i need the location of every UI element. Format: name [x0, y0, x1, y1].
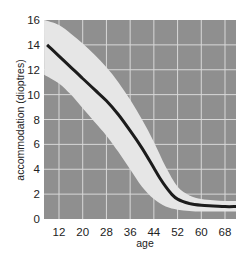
x-tick-label: 12 [53, 226, 66, 238]
x-tick-label: 36 [124, 226, 137, 238]
y-axis-label: accommodation (dioptres) [14, 59, 26, 180]
y-axis-ticks: 0246810121416 [27, 14, 40, 225]
y-tick-label: 6 [34, 138, 40, 150]
x-tick-label: 60 [195, 226, 208, 238]
accommodation-vs-age-chart: 0246810121416 1220283644526068 accommoda… [0, 0, 248, 261]
y-tick-label: 16 [27, 14, 40, 26]
x-tick-label: 28 [100, 226, 113, 238]
x-tick-label: 52 [171, 226, 184, 238]
x-tick-label: 20 [76, 226, 89, 238]
y-tick-label: 14 [27, 39, 40, 51]
y-tick-label: 10 [27, 89, 40, 101]
x-tick-label: 68 [219, 226, 232, 238]
y-tick-label: 2 [34, 188, 40, 200]
y-tick-label: 4 [34, 163, 41, 175]
y-tick-label: 12 [27, 64, 40, 76]
x-axis-label: age [136, 237, 154, 249]
y-tick-label: 8 [34, 114, 40, 126]
y-tick-label: 0 [34, 213, 40, 225]
